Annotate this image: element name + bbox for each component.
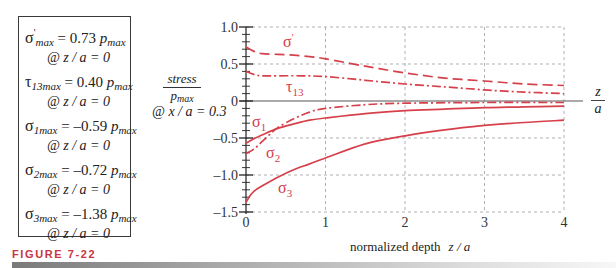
curve-label-subscript: 3 bbox=[287, 187, 293, 199]
curve-label-sigma1: σ1 bbox=[252, 113, 266, 133]
x-axis-label-variable: z / a bbox=[449, 239, 471, 254]
curve-label-tau13: τ13 bbox=[286, 78, 304, 98]
x-axis-label: normalized depthz / a bbox=[350, 239, 470, 255]
curve-label-superscript: ' bbox=[292, 32, 294, 43]
curve-labels: σ'τ13σ1σ2σ3 bbox=[252, 32, 304, 199]
curve-label-subscript: 13 bbox=[292, 86, 304, 98]
figure-label: FIGURE 7-22 bbox=[12, 248, 96, 260]
x-axis-label-text: normalized depth bbox=[350, 239, 441, 254]
x-tick-label: 3 bbox=[481, 215, 488, 230]
y-tick-label: 0 bbox=[231, 94, 238, 109]
x-axis-end-denominator: a bbox=[590, 102, 606, 116]
curve-label-subscript: 2 bbox=[275, 152, 281, 164]
x-axis-end-numerator: z bbox=[590, 85, 606, 99]
curve-label-sigma3: σ3 bbox=[278, 179, 293, 199]
curve-label-sigma2: σ2 bbox=[266, 144, 280, 164]
y-tick-label: 1.0 bbox=[221, 20, 239, 35]
y-tick-label: –1.5 bbox=[213, 205, 239, 220]
stress-depth-chart: 1.00.50–0.5–1.0–1.501234 σ'τ13σ1σ2σ3 bbox=[0, 0, 616, 268]
y-tick-label: –0.5 bbox=[213, 131, 239, 146]
figure-rule bbox=[12, 262, 616, 268]
curve-label-sigma-prime: σ' bbox=[283, 32, 294, 50]
x-tick-label: 1 bbox=[322, 215, 329, 230]
x-axis-end-label: z a bbox=[590, 85, 606, 116]
x-tick-label: 4 bbox=[561, 215, 568, 230]
curve-label-subscript: 1 bbox=[261, 121, 267, 133]
x-tick-label: 0 bbox=[243, 215, 250, 230]
y-tick-label: 0.5 bbox=[221, 57, 239, 72]
y-tick-label: –1.0 bbox=[213, 168, 239, 183]
x-tick-label: 2 bbox=[402, 215, 409, 230]
